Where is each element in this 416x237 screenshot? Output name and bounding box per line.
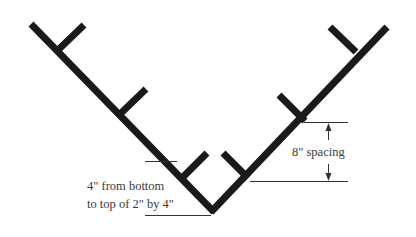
arrow-up-icon (326, 123, 332, 131)
left-branch-bottom (181, 153, 207, 179)
bottom-label-line2: to top of 2" by 4" (87, 197, 174, 211)
v-frame (31, 24, 387, 212)
spacing-label: 8" spacing (292, 145, 345, 159)
bottom-label-line1: 4" from bottom (87, 179, 165, 193)
arrow-down-icon (326, 173, 332, 181)
right-branch-top (330, 27, 356, 52)
right-branch-bottom (223, 153, 248, 178)
left-branch-middle (119, 89, 146, 115)
v-rack-diagram: 8" spacing 4" from bottom to top of 2" b… (0, 0, 416, 237)
right-branch-middle (279, 95, 305, 121)
left-branch-top (57, 25, 84, 51)
